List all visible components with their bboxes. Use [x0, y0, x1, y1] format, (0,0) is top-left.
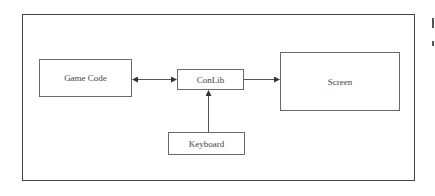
node-keyboard: Keyboard	[168, 132, 245, 155]
node-screen: Screen	[280, 52, 400, 111]
cropped-text-fragment	[432, 41, 434, 46]
node-conlib-label: ConLib	[197, 75, 225, 85]
node-conlib: ConLib	[177, 69, 244, 90]
node-screen-label: Screen	[328, 77, 353, 87]
node-game-code-label: Game Code	[64, 73, 107, 83]
cropped-text-fragment	[432, 18, 434, 28]
node-game-code: Game Code	[39, 59, 132, 97]
node-keyboard-label: Keyboard	[189, 139, 225, 149]
